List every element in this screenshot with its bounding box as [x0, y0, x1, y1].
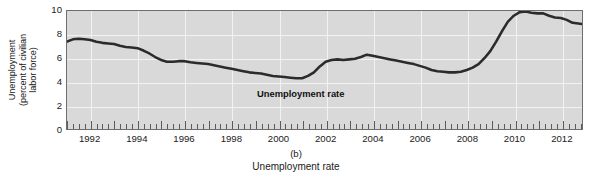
y-axis-title: Unemployment (percent of civilian labor …: [0, 0, 46, 140]
x-tick-label: 1994: [126, 133, 147, 144]
y-axis-title-line-1: Unemployment: [7, 40, 18, 101]
y-axis-title-line-3: labor force): [28, 47, 39, 92]
panel-letter: (b): [0, 148, 592, 160]
y-tick-label: 8: [57, 29, 62, 39]
x-tick-label: 2008: [457, 133, 478, 144]
x-tick-label: 2004: [362, 133, 383, 144]
y-tick-label: 6: [57, 53, 62, 63]
x-axis-tick-labels: 1992199419961998200020022004200620082010…: [66, 133, 583, 147]
figure-caption: (b) Unemployment rate: [0, 148, 592, 173]
y-axis-tick-labels: 0246810: [44, 10, 62, 130]
x-tick-label: 2006: [409, 133, 430, 144]
plot-area: Unemployment rate: [66, 10, 583, 130]
plot-annotations: Unemployment rate: [67, 11, 582, 129]
x-tick-label: 2012: [551, 133, 572, 144]
x-tick-label: 2000: [268, 133, 289, 144]
y-tick-label: 2: [57, 101, 62, 111]
y-tick-label: 4: [57, 77, 62, 87]
x-tick-label: 1992: [79, 133, 100, 144]
x-tick-label: 2002: [315, 133, 336, 144]
x-tick-label: 1998: [221, 133, 242, 144]
unemployment-rate-chart-figure: Unemployment (percent of civilian labor …: [0, 0, 592, 186]
series-annotation-label: Unemployment rate: [257, 88, 345, 99]
y-tick-label: 10: [51, 5, 62, 15]
x-tick-label: 1996: [173, 133, 194, 144]
y-tick-label: 0: [57, 125, 62, 135]
x-tick-label: 2010: [504, 133, 525, 144]
caption-text: Unemployment rate: [0, 160, 592, 173]
y-axis-title-line-2: (percent of civilian: [18, 34, 29, 106]
